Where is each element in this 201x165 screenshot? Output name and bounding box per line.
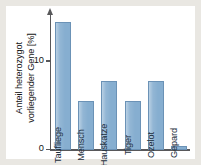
bar-label: Hauskatze	[99, 124, 109, 165]
bar: Hauskatze	[101, 81, 117, 150]
y-tick-label: 10	[34, 55, 44, 65]
y-axis-title-line2: vorliegender Gene [%]	[25, 33, 37, 122]
bar-label: Mensch	[76, 129, 86, 161]
y-axis-title: Anteil heterozygot vorliegender Gene [%]	[10, 8, 40, 148]
y-tick-label: 0	[39, 143, 44, 153]
bar: Ozelot	[148, 81, 164, 150]
bar-series: TaufliegeMenschHauskatzeTigerOzelotGepar…	[50, 8, 190, 150]
y-axis-title-line1: Anteil heterozygot	[14, 42, 24, 114]
bar-chart-figure: Anteil heterozygot vorliegender Gene [%]…	[0, 0, 201, 165]
bar-label: Gepard	[169, 128, 179, 158]
bar-label: Tiger	[123, 135, 133, 155]
bar: Tiger	[125, 101, 141, 150]
bar-label: Taufliege	[53, 127, 63, 163]
bar-label: Ozelot	[146, 132, 156, 158]
bar: Taufliege	[55, 22, 71, 150]
bar: Gepard	[171, 146, 187, 150]
bar: Mensch	[78, 101, 94, 150]
